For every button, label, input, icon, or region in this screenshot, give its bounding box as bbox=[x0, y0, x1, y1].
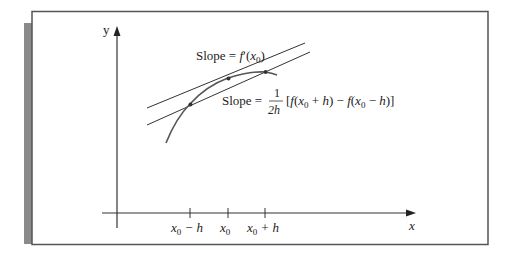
secant-frac-numerator: 1 bbox=[274, 86, 280, 100]
frame-shadow bbox=[24, 23, 32, 244]
point-x0-plus-h bbox=[264, 70, 268, 74]
tick-label-x0-minus-h: x0 − h bbox=[170, 220, 203, 237]
tick-label-x0-plus-h: x0 + h bbox=[246, 220, 279, 237]
y-axis-label: y bbox=[103, 22, 110, 37]
point-x0-minus-h bbox=[189, 103, 193, 107]
secant-frac-denominator: 2h bbox=[268, 103, 280, 117]
frame-border bbox=[32, 12, 488, 245]
tangent-slope-label: Slope = f′(x0) bbox=[196, 48, 265, 65]
derivative-approximation-diagram: y x x0 − h x0 x0 + h Slope = f′(x0) Slop… bbox=[0, 0, 512, 260]
point-x0 bbox=[227, 77, 231, 81]
secant-slope-expression: [f(x0 + h) − f(x0 − h)] bbox=[286, 93, 394, 110]
x-axis-label: x bbox=[408, 218, 415, 233]
secant-slope-label-prefix: Slope = bbox=[222, 93, 262, 108]
